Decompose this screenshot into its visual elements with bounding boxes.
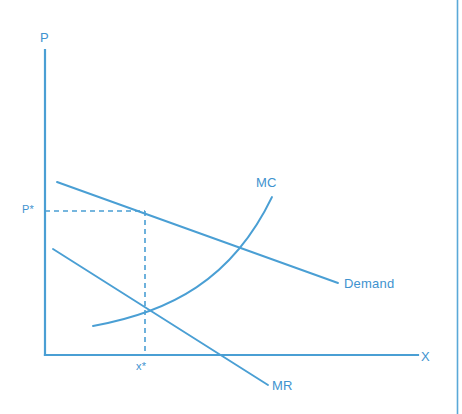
marginal-cost-curve: [93, 197, 272, 326]
price-star-label: P*: [22, 203, 34, 215]
quantity-star-label: x*: [136, 360, 146, 372]
x-axis-label: X: [421, 349, 430, 364]
marginal-revenue-label: MR: [272, 378, 293, 393]
demand-curve-label: Demand: [344, 276, 394, 291]
marginal-revenue-curve: [53, 249, 268, 385]
y-axis-label: P: [40, 30, 49, 45]
economics-diagram: [0, 0, 462, 414]
diagram-canvas: P X P* x* Demand MC MR: [0, 0, 462, 414]
marginal-cost-label: MC: [256, 175, 277, 190]
demand-curve: [57, 182, 338, 283]
